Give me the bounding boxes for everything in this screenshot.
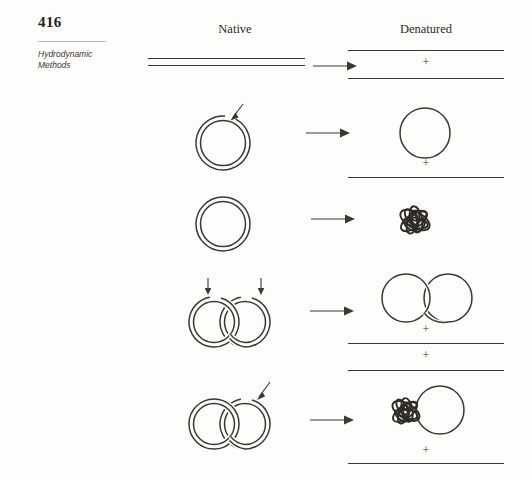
row-1-plus-1: + [416,55,436,70]
row-4-denatured-interlocked-circles [378,272,476,326]
row-3-denatured-collapsed-coil [389,196,443,246]
running-head: Hydrodynamic Methods [38,49,124,71]
row-4-plus-1: + [416,322,436,337]
column-header-denatured: Denatured [356,22,496,37]
row-5-denatured-coil-and-circle [378,382,476,440]
header-rule [38,41,106,42]
row-3-arrow-icon [311,211,355,227]
row-2-plus-1: + [416,156,436,171]
running-head-line-2: Methods [38,60,124,71]
row-1-arrow-icon [313,58,357,74]
running-head-line-1: Hydrodynamic [38,49,124,60]
page-number: 416 [38,14,62,31]
row-3-native-closed-circle [193,194,255,256]
figure-page: 416 Hydrodynamic Methods Native Denature… [0,0,532,481]
row-5-arrow-icon [310,412,354,428]
row-2-arrow-icon [306,125,350,141]
row-2-denatured-single-circle [398,105,454,161]
row-4-arrow-icon [310,303,354,319]
row-2-native-nicked-circle [188,98,260,180]
row-2-nick-arrow-icon [231,104,244,121]
row-5-native-catenane-one-nicked [182,382,286,454]
row-4-nick-arrow-right-icon [258,278,265,295]
row-5-plus-1: + [416,443,436,458]
row-4-plus-2: + [416,348,436,363]
row-4-nick-arrow-left-icon [205,278,212,295]
column-header-native: Native [165,22,305,37]
row-4-native-catenane-both-nicked [182,276,286,354]
row-5-nick-arrow-icon [257,382,270,400]
